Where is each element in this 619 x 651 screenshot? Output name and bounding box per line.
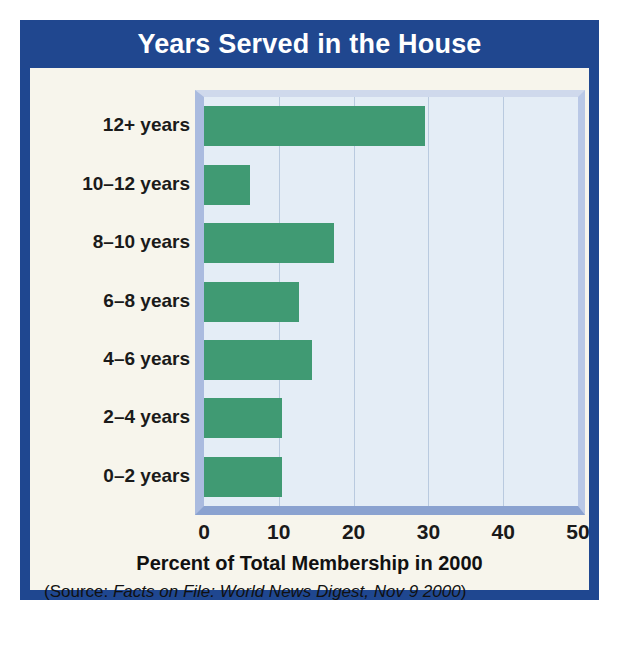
y-axis-labels: 12+ years10–12 years8–10 years6–8 years4… — [30, 90, 190, 515]
bar-row — [204, 340, 312, 380]
source-citation: Facts on File: World News Digest, Nov 9 … — [113, 582, 461, 601]
x-axis-tick-label: 10 — [267, 520, 290, 544]
bar-row — [204, 223, 334, 263]
bar-row — [204, 282, 299, 322]
y-axis-tick-label: 8–10 years — [35, 231, 190, 253]
bar — [204, 106, 425, 146]
source-prefix: (Source: — [44, 582, 113, 601]
bar — [204, 282, 299, 322]
bar-row — [204, 457, 282, 497]
source-suffix: ) — [461, 582, 467, 601]
bar-row — [204, 398, 282, 438]
plot-area — [204, 97, 578, 506]
plot-frame — [195, 90, 585, 515]
x-axis-tick-label: 30 — [417, 520, 440, 544]
y-axis-tick-label: 6–8 years — [35, 290, 190, 312]
bar — [204, 223, 334, 263]
y-axis-tick-label: 12+ years — [35, 114, 190, 136]
page-title: Years Served in the House — [137, 29, 481, 60]
chart-title-bar: Years Served in the House — [20, 20, 599, 68]
y-axis-tick-label: 4–6 years — [35, 348, 190, 370]
y-axis-tick-label: 2–4 years — [35, 406, 190, 428]
source-note: (Source: Facts on File: World News Diges… — [44, 582, 466, 602]
bar — [204, 457, 282, 497]
x-axis-ticks: 01020304050 — [195, 520, 585, 550]
gridline — [503, 97, 504, 506]
x-axis-title: Percent of Total Membership in 2000 — [30, 552, 589, 575]
bar-row — [204, 165, 250, 205]
gridline — [354, 97, 355, 506]
y-axis-tick-label: 0–2 years — [35, 465, 190, 487]
chart-figure: Years Served in the House 12+ years10–12… — [20, 20, 599, 600]
chart-card: 12+ years10–12 years8–10 years6–8 years4… — [30, 68, 589, 590]
x-axis-tick-label: 50 — [566, 520, 589, 544]
bar — [204, 398, 282, 438]
y-axis-tick-label: 10–12 years — [35, 173, 190, 195]
x-axis-tick-label: 40 — [492, 520, 515, 544]
bar-row — [204, 106, 425, 146]
bar — [204, 165, 250, 205]
gridline — [428, 97, 429, 506]
x-axis-tick-label: 0 — [198, 520, 210, 544]
bar — [204, 340, 312, 380]
x-axis-tick-label: 20 — [342, 520, 365, 544]
